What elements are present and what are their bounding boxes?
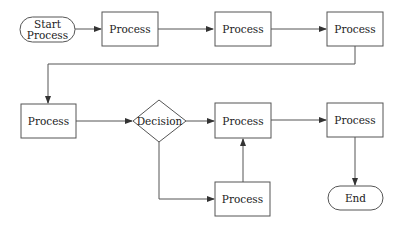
decision-diamond: Decision	[133, 100, 186, 142]
process-label: Process	[334, 114, 375, 126]
decision-label: Decision	[137, 115, 183, 127]
process-box-5: Process	[215, 103, 271, 138]
flowchart: Start Process Process Process Process Pr…	[0, 0, 403, 226]
process-label: Process	[28, 115, 69, 127]
process-label: Process	[222, 115, 263, 127]
start-terminator: Start Process	[20, 17, 75, 42]
start-label-line2: Process	[27, 29, 68, 41]
process-label: Process	[109, 23, 150, 35]
edge-d1-p7	[159, 142, 214, 199]
process-box-2: Process	[215, 12, 271, 46]
process-box-7: Process	[215, 182, 270, 216]
process-label: Process	[334, 23, 375, 35]
process-box-3: Process	[327, 12, 383, 46]
process-box-1: Process	[102, 12, 158, 46]
end-label: End	[345, 192, 366, 204]
process-label: Process	[222, 193, 263, 205]
process-label: Process	[222, 23, 263, 35]
process-box-4: Process	[21, 104, 76, 138]
process-box-6: Process	[327, 103, 383, 137]
edge-p3-p4	[48, 46, 355, 103]
end-terminator: End	[328, 186, 383, 210]
